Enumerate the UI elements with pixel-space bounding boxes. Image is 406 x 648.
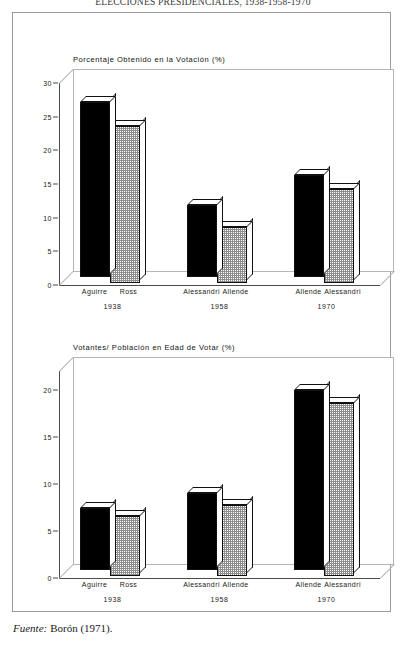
plot-depth-edge [59, 357, 74, 372]
chart-votantes-poblacion: Votantes/ Población en Edad de Votar (%)… [33, 343, 398, 613]
category-label: Ross [120, 581, 138, 588]
category-label: Allende [222, 288, 248, 295]
bar-side-face [247, 496, 253, 573]
y-tick-label: 15 [43, 433, 52, 440]
y-tick-mark [53, 483, 58, 484]
bar [294, 384, 324, 570]
plot-depth-edge [380, 271, 395, 286]
plot-box [59, 69, 394, 286]
bar-side-face [247, 218, 253, 280]
bars-layer [59, 371, 380, 578]
bar-side-face [140, 117, 146, 280]
y-tick-mark [53, 150, 58, 151]
category-label: Allende [295, 581, 321, 588]
y-tick-mark [53, 184, 58, 185]
bar-front-face [80, 102, 110, 277]
category-labels: AguirreRoss1938AlessandriAllende1958Alle… [59, 579, 394, 613]
bar-front-face [294, 390, 324, 570]
bar-side-face [140, 507, 146, 573]
group-year-label: 1958 [211, 303, 229, 310]
chart-title: Porcentaje Obtenido en la Votación (%) [73, 55, 225, 64]
bar [187, 199, 217, 277]
plot-area: 051015202530 AguirreRoss1938AlessandriAl… [33, 69, 398, 320]
bar-top-face [80, 96, 116, 102]
bar-side-face [354, 180, 360, 280]
y-tick-label: 15 [43, 181, 52, 188]
group-year-label: 1938 [104, 303, 122, 310]
category-label: Alessandri [183, 581, 220, 588]
category-labels: AguirreRoss1938AlessandriAllende1958Alle… [59, 286, 394, 320]
bar-top-face [187, 199, 223, 205]
category-label: Aguirre [82, 288, 107, 295]
category-label: Ross [120, 288, 138, 295]
y-tick-label: 10 [43, 214, 52, 221]
y-tick-label: 30 [43, 80, 52, 87]
category-label: Alessandri [324, 288, 361, 295]
running-head: ELECCIONES PRESIDENCIALES, 1938-1958-197… [0, 0, 406, 8]
figure-frame: Porcentaje Obtenido en la Votación (%) 0… [12, 12, 391, 612]
bar-top-face [187, 487, 223, 493]
plot-box [59, 357, 394, 579]
chart-title: Votantes/ Población en Edad de Votar (%) [73, 343, 235, 352]
y-tick-label: 20 [43, 147, 52, 154]
y-tick-mark [53, 251, 58, 252]
y-tick-label: 20 [43, 386, 52, 393]
category-label: Allende [222, 581, 248, 588]
category-label: Allende [295, 288, 321, 295]
group-year-label: 1970 [318, 303, 336, 310]
y-axis-ticks: 05101520 [33, 357, 59, 613]
y-tick-label: 0 [48, 282, 52, 289]
bar-side-face [110, 93, 116, 274]
bar [80, 502, 110, 570]
bar-front-face [187, 493, 217, 570]
y-tick-mark [53, 578, 58, 579]
bar-side-face [324, 381, 330, 567]
category-label: Alessandri [324, 581, 361, 588]
y-tick-mark [53, 217, 58, 218]
bar-side-face [217, 484, 223, 567]
y-tick-label: 0 [48, 575, 52, 582]
y-tick-label: 5 [48, 248, 52, 255]
bars-layer [59, 83, 380, 285]
source-text: Borón (1971). [50, 622, 112, 634]
bar-top-face [294, 169, 330, 175]
group-year-label: 1938 [104, 596, 122, 603]
bar-front-face [294, 175, 324, 277]
y-tick-mark [53, 285, 58, 286]
bar [80, 96, 110, 277]
y-axis-ticks: 051015202530 [33, 69, 59, 320]
y-tick-mark [53, 83, 58, 84]
bar-side-face [110, 499, 116, 567]
plot-depth-edge [380, 564, 395, 579]
plot-area: 05101520 AguirreRoss1938AlessandriAllend… [33, 357, 398, 613]
category-label: Aguirre [82, 581, 107, 588]
bar [294, 169, 324, 277]
y-tick-mark [53, 436, 58, 437]
bar-side-face [217, 196, 223, 274]
category-label: Alessandri [183, 288, 220, 295]
plot-depth-edge [59, 69, 74, 84]
y-tick-label: 10 [43, 480, 52, 487]
bar-side-face [354, 394, 360, 573]
bar-front-face [80, 508, 110, 570]
y-tick-label: 5 [48, 527, 52, 534]
bar-front-face [187, 205, 217, 277]
chart-porcentaje-votacion: Porcentaje Obtenido en la Votación (%) 0… [33, 55, 398, 320]
group-year-label: 1958 [211, 596, 229, 603]
bar-top-face [80, 502, 116, 508]
group-year-label: 1970 [318, 596, 336, 603]
y-tick-mark [53, 116, 58, 117]
source-note: Fuente:Borón (1971). [13, 622, 113, 634]
bar [187, 487, 217, 570]
source-label: Fuente: [13, 622, 47, 634]
bar-top-face [294, 384, 330, 390]
bar-side-face [324, 166, 330, 274]
y-tick-mark [53, 530, 58, 531]
y-tick-mark [53, 389, 58, 390]
y-tick-label: 25 [43, 113, 52, 120]
